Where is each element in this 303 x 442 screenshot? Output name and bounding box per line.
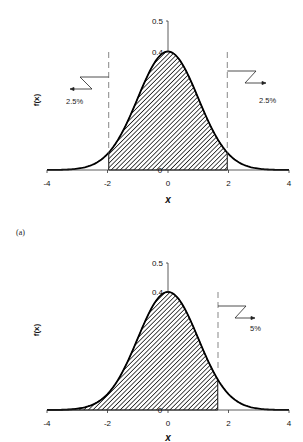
tail-percent-right: 5% — [250, 324, 261, 333]
shaded-area — [109, 52, 228, 170]
x-tick-label: 2 — [226, 419, 231, 428]
x-tick-label: 2 — [226, 179, 231, 188]
y-tick-label: 0.4 — [152, 48, 164, 57]
x-axis-ticks — [47, 170, 289, 173]
figure: 0.5 0.4 0 -4 -2 0 2 4 x f(x) 2.5% 2.5% (… — [0, 0, 303, 442]
panel-label: (a) — [16, 228, 25, 237]
y-tick-label: 0.5 — [152, 17, 164, 26]
y-tick-label: 0.5 — [152, 259, 164, 268]
chart-top: 0.5 0.4 0 -4 -2 0 2 4 x f(x) 2.5% 2.5% — [32, 17, 292, 205]
tail-arrow-right-icon — [218, 306, 255, 320]
chart-bottom: 0.5 0.4 0 -4 -2 0 2 4 x f(x) 5% — [32, 259, 292, 442]
tail-arrow-left-icon — [70, 77, 109, 91]
y-tick-label: 0 — [158, 406, 163, 415]
x-tick-label: 0 — [166, 419, 171, 428]
x-tick-label: -2 — [104, 419, 112, 428]
x-axis-label: x — [164, 432, 171, 442]
y-axis-label: f(x) — [32, 323, 41, 336]
x-axis-label: x — [164, 194, 171, 205]
y-axis-label: f(x) — [32, 93, 41, 106]
x-tick-label: -4 — [43, 419, 51, 428]
x-tick-label: -2 — [104, 179, 112, 188]
x-tick-label: -4 — [43, 179, 51, 188]
tail-percent-right: 2.5% — [259, 96, 276, 105]
tail-arrow-right-icon — [227, 71, 266, 85]
y-tick-label: 0 — [158, 166, 163, 175]
x-tick-label: 4 — [287, 419, 292, 428]
y-tick-label: 0.4 — [152, 288, 164, 297]
tail-percent-left: 2.5% — [66, 97, 83, 106]
x-tick-label: 0 — [166, 179, 171, 188]
x-tick-label: 4 — [287, 179, 292, 188]
